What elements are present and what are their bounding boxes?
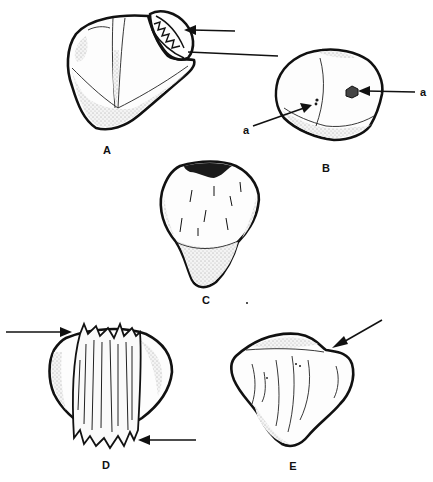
pointer-line-a-lower [188,52,278,56]
seed-e-dot-3 [266,377,268,379]
panel-label-a: A [103,144,111,156]
panel-c: C [161,162,259,307]
seed-e-dot-2 [299,365,301,367]
seed-b-spot-2 [315,103,318,106]
panel-b: a a B [243,49,427,174]
seed-e-dot-1 [295,363,297,365]
panel-label-b: B [322,162,330,174]
arrowhead-d-bottom [138,435,150,445]
panel-e: E [231,320,382,472]
annotation-a-left: a [243,124,250,136]
arrowhead-e [332,336,348,348]
annotation-a-right: a [420,86,427,98]
arrow-e [340,320,382,344]
arrow-a-upper [192,30,235,31]
seed-b-spot-1 [315,98,318,101]
arrow-b-right [366,91,415,92]
panel-label-c: C [202,294,210,306]
seed-illustration-figure: A a a B C [0,0,433,482]
seed-e-body [231,334,353,446]
panel-d: D [6,324,196,471]
panel-label-e: E [289,460,296,472]
panel-label-d: D [102,459,110,471]
seed-d-tissue [73,324,141,448]
stray-dot [246,302,248,304]
